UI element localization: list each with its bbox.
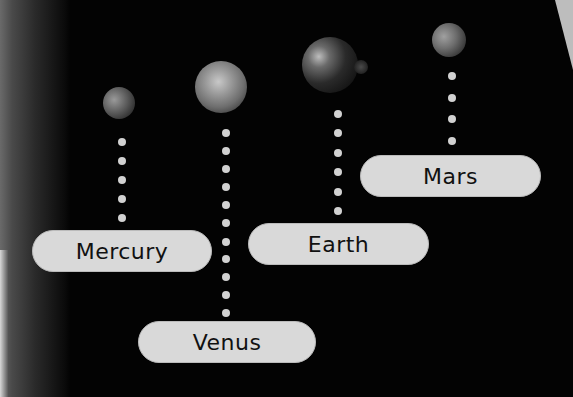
venus-label: Venus bbox=[138, 321, 316, 363]
connector-dot bbox=[118, 176, 126, 184]
mars-label-text: Mars bbox=[423, 164, 478, 189]
earth-label: Earth bbox=[248, 223, 429, 265]
connector-dot bbox=[448, 137, 456, 145]
mercury-planet-icon bbox=[103, 87, 135, 119]
connector-dot bbox=[118, 214, 126, 222]
connector-dot bbox=[334, 129, 342, 137]
connector-dot bbox=[222, 255, 230, 263]
connector-dot bbox=[222, 129, 230, 137]
connector-dot bbox=[222, 165, 230, 173]
earth-planet-icon bbox=[302, 37, 358, 93]
mercury-label: Mercury bbox=[32, 230, 212, 272]
connector-dot bbox=[334, 207, 342, 215]
mars-planet-icon bbox=[432, 23, 466, 57]
connector-dot bbox=[118, 195, 126, 203]
connector-dot bbox=[222, 201, 230, 209]
connector-dot bbox=[334, 149, 342, 157]
connector-dot bbox=[118, 157, 126, 165]
connector-dot bbox=[448, 94, 456, 102]
moon-icon bbox=[354, 60, 368, 74]
connector-dot bbox=[222, 147, 230, 155]
connector-dot bbox=[448, 72, 456, 80]
paper-edge-shadow bbox=[0, 0, 70, 397]
connector-dot bbox=[118, 138, 126, 146]
connector-dot bbox=[222, 309, 230, 317]
connector-dot bbox=[334, 188, 342, 196]
connector-dot bbox=[222, 183, 230, 191]
connector-dot bbox=[222, 238, 230, 246]
connector-dot bbox=[222, 219, 230, 227]
connector-dot bbox=[334, 168, 342, 176]
venus-label-text: Venus bbox=[193, 330, 262, 355]
connector-dot bbox=[448, 115, 456, 123]
paper-corner bbox=[555, 0, 573, 70]
venus-planet-icon bbox=[195, 61, 247, 113]
connector-dot bbox=[222, 291, 230, 299]
mercury-label-text: Mercury bbox=[76, 239, 169, 264]
paper-edge-highlight bbox=[0, 250, 8, 397]
connector-dot bbox=[334, 110, 342, 118]
earth-label-text: Earth bbox=[308, 232, 370, 257]
connector-dot bbox=[222, 273, 230, 281]
mars-label: Mars bbox=[360, 155, 541, 197]
